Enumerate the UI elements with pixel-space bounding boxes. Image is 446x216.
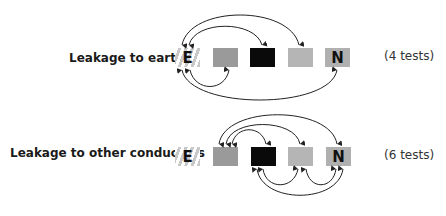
arc-E-c4 xyxy=(182,15,299,45)
test-arcs xyxy=(0,0,446,216)
arc-E-c2 xyxy=(190,70,229,87)
arc-E-c3 xyxy=(189,26,262,45)
arc-c3-N xyxy=(257,169,343,195)
arc-c3-c4 xyxy=(263,169,298,185)
arc-c2-N xyxy=(219,115,337,144)
arc-E-N xyxy=(182,70,337,100)
arc-c2-c3 xyxy=(232,130,266,144)
arc-c4-N xyxy=(306,169,336,185)
